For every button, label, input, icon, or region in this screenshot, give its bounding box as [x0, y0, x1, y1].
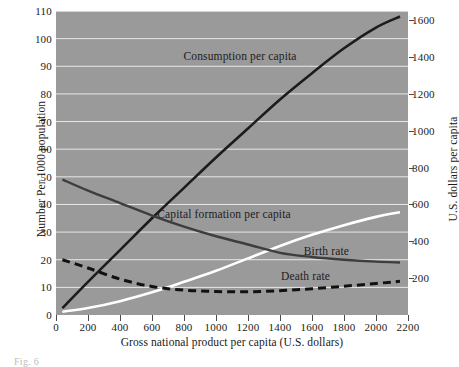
- y-axis-right-tickmark: [409, 131, 414, 132]
- series-label-birth-rate: Birth rate: [304, 245, 349, 257]
- x-axis-tickmark: [408, 315, 409, 321]
- y-axis-right-tickmark: [409, 278, 414, 279]
- y-axis-right-tickmark: [409, 204, 414, 205]
- x-axis-tickmark: [248, 315, 249, 321]
- x-axis-tickmark: [152, 315, 153, 321]
- x-axis-tickmark: [56, 315, 57, 321]
- y-axis-left-title: Number Per 1000 population: [35, 59, 47, 279]
- series-label-consumption-per-capita: Consumption per capita: [183, 50, 296, 62]
- x-axis-tickmark: [184, 315, 185, 321]
- y-axis-right-tickmark: [409, 20, 414, 21]
- x-axis-tickmark: [344, 315, 345, 321]
- x-axis-tickmark: [88, 315, 89, 321]
- x-axis-tickmark: [312, 315, 313, 321]
- x-axis-tick-label: 2200: [383, 321, 433, 333]
- y-axis-left-tick-label: 100: [6, 33, 52, 45]
- y-axis-right-tickmark: [409, 94, 414, 95]
- y-axis-right-tickmark: [409, 241, 414, 242]
- x-axis-tickmark: [216, 315, 217, 321]
- series-label-death-rate: Death rate: [281, 270, 330, 282]
- x-axis-tickmark: [280, 315, 281, 321]
- y-axis-left-tick-label: 10: [6, 281, 52, 293]
- y-axis-right-tick-label: 1600: [412, 14, 458, 26]
- y-axis-right-tickmark: [409, 57, 414, 58]
- y-axis-right-tickmark: [409, 168, 414, 169]
- figure-caption: Fig. 6: [14, 356, 39, 367]
- y-axis-left-tick-label: 110: [6, 5, 52, 17]
- y-axis-left-tick-label: 0: [6, 309, 52, 321]
- series-label-capital-formation-per-capita: Capital formation per capita: [157, 208, 291, 220]
- x-axis-tickmark: [376, 315, 377, 321]
- y-axis-right-title: U.S. dollars per capita: [447, 59, 459, 279]
- x-axis-title: Gross national product per capita (U.S. …: [56, 336, 408, 348]
- x-axis-tickmark: [120, 315, 121, 321]
